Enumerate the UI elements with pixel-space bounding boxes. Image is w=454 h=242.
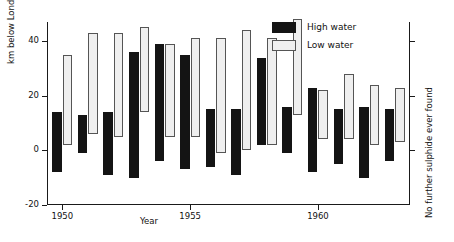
x-tick-label-1960: 1960 — [298, 212, 338, 221]
right-axis-annotation: No further sulphide ever found — [424, 87, 434, 218]
y-tick-right-40 — [410, 41, 415, 42]
bar-low-1953 — [140, 27, 150, 112]
bar-low-1957 — [242, 30, 252, 150]
y-axis-line — [47, 22, 48, 205]
bar-high-1951 — [78, 115, 88, 153]
bar-high-1957 — [231, 109, 241, 175]
y-tick-label-0: 0 — [13, 145, 39, 154]
x-tick-1950 — [62, 205, 63, 210]
bar-high-1956 — [206, 109, 216, 166]
legend-label-low: Low water — [307, 41, 353, 50]
x-tick-label-1955: 1955 — [170, 212, 210, 221]
y-tick--20 — [42, 205, 47, 206]
y-tick-label--20: -20 — [13, 200, 39, 209]
bar-high-1958 — [257, 58, 267, 145]
bar-low-1956 — [216, 38, 226, 153]
y-tick-40 — [42, 41, 47, 42]
bar-low-1962 — [370, 85, 380, 145]
bar-high-1963 — [385, 109, 395, 161]
bar-high-1952 — [103, 112, 113, 175]
bar-high-1955 — [180, 55, 190, 170]
x-tick-label-1950: 1950 — [42, 212, 82, 221]
legend-swatch-low — [272, 40, 296, 51]
bar-high-1950 — [52, 112, 62, 172]
bar-high-1959 — [282, 107, 292, 153]
bar-low-1963 — [395, 88, 405, 143]
chart-figure: km below London Bridge -2002040 19501955… — [0, 0, 454, 242]
y-axis-right-line — [409, 22, 410, 205]
y-axis-title: km below London Bridge — [6, 0, 16, 64]
bar-high-1953 — [129, 52, 139, 178]
bar-low-1954 — [165, 44, 175, 137]
bar-high-1954 — [155, 44, 165, 161]
y-axis-title-container: km below London Bridge — [8, 22, 22, 205]
x-axis-line — [47, 204, 410, 205]
y-tick-20 — [42, 96, 47, 97]
y-tick-label-20: 20 — [13, 91, 39, 100]
x-tick-1955 — [190, 205, 191, 210]
y-tick-right-20 — [410, 96, 415, 97]
y-tick-label-40: 40 — [13, 36, 39, 45]
legend-item-low: Low water — [272, 40, 402, 51]
right-axis-title-container: No further sulphide ever found — [424, 22, 440, 218]
legend-swatch-high — [272, 22, 296, 33]
bar-low-1960 — [318, 90, 328, 139]
legend-item-high: High water — [272, 22, 402, 33]
legend-label-high: High water — [307, 23, 356, 32]
y-tick-right-0 — [410, 150, 415, 151]
bar-low-1950 — [63, 55, 73, 145]
y-tick-0 — [42, 150, 47, 151]
chart-legend: High waterLow water — [272, 22, 402, 58]
bar-low-1951 — [88, 33, 98, 134]
bar-high-1961 — [334, 109, 344, 164]
bar-low-1961 — [344, 74, 354, 140]
bar-high-1960 — [308, 88, 318, 173]
x-axis-title: Year — [140, 216, 158, 226]
x-tick-1960 — [318, 205, 319, 210]
bar-low-1952 — [114, 33, 124, 137]
bar-low-1955 — [191, 38, 201, 136]
bar-high-1962 — [359, 107, 369, 178]
